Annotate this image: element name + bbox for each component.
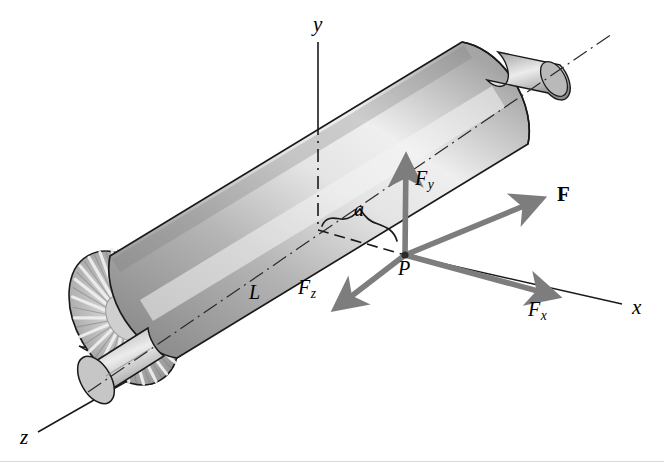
vector-label-Fz-sub: z (311, 286, 316, 301)
axis-label-x: x (632, 297, 641, 318)
vector-label-Fz: Fz (298, 277, 316, 300)
motor-cylinder-body (46, 7, 573, 410)
vector-Fx-arrow (405, 255, 556, 296)
axis-label-y: y (313, 14, 322, 35)
centerline-axis (88, 34, 612, 392)
vector-label-Fy-base: F (415, 167, 427, 189)
vector-label-Fy-sub: y (428, 177, 434, 192)
figure-canvas (0, 0, 664, 462)
vector-label-F: F (557, 184, 570, 205)
vector-label-Fx-base: F (528, 298, 540, 320)
vector-label-Fx: Fx (528, 299, 547, 322)
vector-label-Fz-base: F (298, 276, 310, 298)
vector-Fz-arrow (336, 255, 405, 308)
vector-Fy-arrow (405, 158, 406, 255)
vector-label-Fy: Fy (415, 168, 434, 191)
barrel (109, 42, 530, 358)
dimension-label-a: a (354, 199, 364, 219)
point-label-P: P (398, 258, 410, 278)
axis-label-z: z (20, 427, 28, 448)
mechanics-figure: y x z P a L F Fy Fx Fz (0, 0, 664, 462)
vector-label-Fx-sub: x (541, 308, 547, 323)
dimension-label-L: L (249, 282, 260, 302)
